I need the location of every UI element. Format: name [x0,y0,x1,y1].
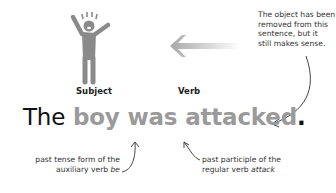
annotation-attacked: past participle of the regular verb atta… [202,155,312,174]
word-the: The [23,104,65,130]
sentence-period: . [297,104,306,130]
word-attacked: attacked [185,104,297,130]
example-sentence: The boy was attacked. [23,104,306,130]
word-boy: boy [73,104,120,130]
annotation-was: past tense form of the auxiliary verb be [20,155,120,174]
word-was: was [127,104,177,130]
